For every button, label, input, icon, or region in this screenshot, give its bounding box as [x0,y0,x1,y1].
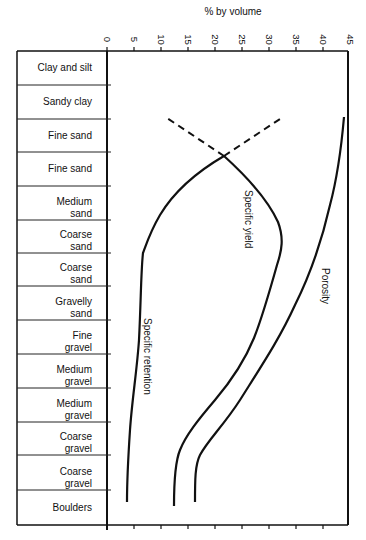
row-label-coarse-gravel: Coarsegravel [18,455,104,490]
specific-yield-dashed-extension [167,118,224,156]
porosity-label: Porosity [320,268,331,304]
tick-label: 40 [318,30,329,50]
row-label-coarse-sand: Coarsesand [18,220,104,253]
tick-label: 30 [264,30,275,50]
tick-label: 5 [129,30,140,50]
specific-yield-curve [174,156,282,506]
tick-label: 25 [237,30,248,50]
row-label-medium-gravel: Mediumgravel [18,354,104,388]
row-label-coarse-sand: Coarsesand [18,253,104,286]
tick-label: 15 [183,30,194,50]
tick-label: 35 [291,30,302,50]
tick-label: 10 [156,30,167,50]
specific-yield-label: Specific yield [243,190,254,248]
row-label-coarse-gravel: Coarsegravel [18,422,104,455]
specific-retention-dashed-extension [224,117,283,156]
row-label-gravelly-sand: Gravellysand [18,286,104,320]
tick-label: 45 [345,30,356,50]
axis-title: % by volume [0,6,366,17]
row-label-fine-sand: Fine sand [18,119,104,152]
row-label-fine-gravel: Finegravel [18,320,104,354]
specific-retention-label: Specific retention [142,318,153,395]
row-label-boulders: Boulders [18,490,104,525]
tick-label: 20 [210,30,221,50]
row-label-medium-gravel: Mediumgravel [18,388,104,422]
row-label-medium-sand: Mediumsand [18,186,104,220]
porosity-curve [195,117,344,502]
row-label-sandy-clay: Sandy clay [18,85,104,119]
row-label-clay-and-silt: Clay and silt [18,51,104,85]
row-label-fine-sand: Fine sand [18,152,104,186]
tick-label: 0 [102,30,113,50]
